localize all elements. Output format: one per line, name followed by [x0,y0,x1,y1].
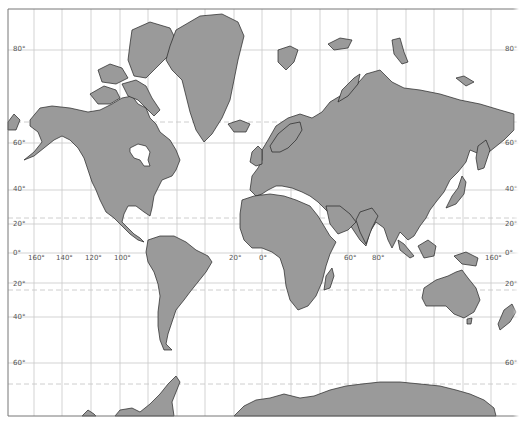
tasmania [467,318,472,324]
latitude-label-left: 40° [13,314,25,321]
latitude-label-left: 60° [13,140,25,147]
latitude-label-left: 60° [13,360,25,367]
longitude-label: 20° [229,255,241,262]
longitude-label: 120° [85,255,102,262]
longitude-label: 160° [28,255,45,262]
right-edge-fade [513,0,519,424]
latitude-label-right: 0° [505,250,513,257]
world-map [0,0,519,424]
latitude-label-left: 80° [13,46,25,53]
longitude-label: 80° [372,255,384,262]
longitude-label: 0° [259,255,267,262]
latitude-label-left: 20° [13,221,25,228]
latitude-label-left: 20° [13,281,25,288]
latitude-label-left: 0° [13,250,21,257]
latitude-label-left: 40° [13,186,25,193]
longitude-label: 160° [485,255,502,262]
longitude-label: 60° [344,255,356,262]
longitude-label: 140° [56,255,73,262]
longitude-label: 100° [114,255,131,262]
